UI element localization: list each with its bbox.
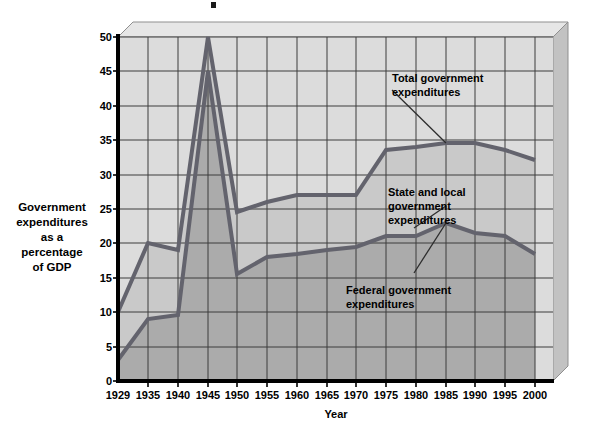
- y-tick-label: 10: [90, 306, 112, 319]
- annotation-state-local-line: government: [388, 200, 466, 214]
- y-axis-title-line: percentage: [0, 245, 104, 260]
- annotation-federal-line: Federal government: [346, 284, 451, 298]
- chart-figure: 50 45 40 35 30 25 20 15 10 5 0 1929 1935…: [0, 0, 607, 424]
- y-tick-label: 40: [90, 100, 112, 113]
- y-tick-label: 45: [90, 65, 112, 78]
- plot-top-face-3d: [118, 22, 568, 37]
- annotation-state-local-line: State and local: [388, 186, 466, 200]
- x-tick-label: 2000: [515, 389, 555, 402]
- y-tick-label: 35: [90, 134, 112, 147]
- y-axis-title-line: as a: [0, 230, 104, 245]
- y-tick-label: 5: [90, 341, 112, 354]
- y-tick-label: 30: [90, 169, 112, 182]
- plot-right-face-3d: [553, 22, 568, 381]
- annotation-federal: Federal government expenditures: [346, 284, 451, 312]
- annotation-state-local-line: expenditures: [388, 214, 466, 228]
- annotation-total: Total government expenditures: [392, 72, 483, 100]
- y-axis-title: Government expenditures as a percentage …: [0, 200, 104, 275]
- y-tick-label: 0: [90, 375, 112, 388]
- annotation-total-line: Total government: [392, 72, 483, 86]
- annotation-state-local: State and local government expenditures: [388, 186, 466, 228]
- x-axis-title: Year: [296, 408, 376, 421]
- annotation-federal-line: expenditures: [346, 298, 451, 312]
- y-axis-title-line: of GDP: [0, 260, 104, 275]
- y-tick-label: 50: [90, 31, 112, 44]
- y-axis-title-line: Government: [0, 200, 104, 215]
- y-axis-title-line: expenditures: [0, 215, 104, 230]
- annotation-total-line: expenditures: [392, 86, 483, 100]
